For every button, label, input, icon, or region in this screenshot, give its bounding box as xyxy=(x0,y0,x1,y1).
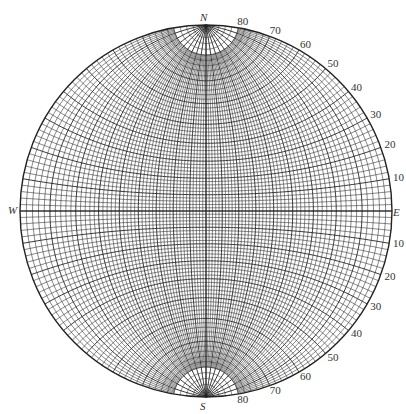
east-label: E xyxy=(393,207,400,218)
degree-label: 20 xyxy=(384,139,395,150)
degree-label: 30 xyxy=(370,109,381,120)
degree-label: 10 xyxy=(393,172,404,183)
south-label: S xyxy=(200,401,206,412)
degree-label: 80 xyxy=(237,16,248,27)
stereonet xyxy=(0,0,406,414)
west-label: W xyxy=(8,205,17,216)
degree-label: 30 xyxy=(370,301,381,312)
degree-label: 40 xyxy=(351,328,362,339)
degree-label: 80 xyxy=(237,394,248,405)
north-label: N xyxy=(200,12,207,23)
degree-label: 10 xyxy=(393,238,404,249)
degree-label: 50 xyxy=(327,352,338,363)
degree-label: 60 xyxy=(300,39,311,50)
degree-label: 70 xyxy=(270,25,281,36)
degree-label: 50 xyxy=(327,58,338,69)
degree-label: 60 xyxy=(300,371,311,382)
degree-label: 40 xyxy=(351,82,362,93)
degree-label: 20 xyxy=(384,271,395,282)
degree-label: 70 xyxy=(270,385,281,396)
